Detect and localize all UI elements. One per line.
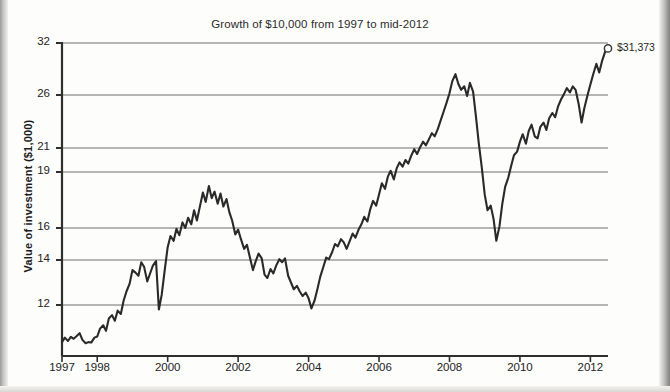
- x-tick-label-2006: 2006: [349, 361, 409, 373]
- endpoint-circle-marker: [604, 45, 611, 52]
- series-line-0: [62, 48, 608, 343]
- x-tick-label-2004: 2004: [279, 361, 339, 373]
- axis-lines: [62, 42, 608, 356]
- y-tick-label-21: 21: [16, 140, 50, 152]
- tick-marks: [56, 43, 590, 362]
- x-tick-label-2000: 2000: [138, 361, 198, 373]
- y-tick-label-26: 26: [16, 87, 50, 99]
- y-tick-label-19: 19: [16, 164, 50, 176]
- y-tick-label-16: 16: [16, 220, 50, 232]
- endpoint-value-label: $31,373: [617, 41, 655, 53]
- x-tick-label-2010: 2010: [490, 361, 550, 373]
- chart-page: Growth of $10,000 from 1997 to mid-2012 …: [0, 0, 670, 392]
- chart-svg: [0, 0, 670, 392]
- x-tick-label-2012: 2012: [560, 361, 620, 373]
- y-tick-label-32: 32: [16, 35, 50, 47]
- x-tick-label-2008: 2008: [419, 361, 479, 373]
- endpoint-marker: [604, 45, 611, 52]
- plot-area: [0, 0, 670, 392]
- y-tick-label-14: 14: [16, 252, 50, 264]
- x-tick-label-1998: 1998: [67, 361, 127, 373]
- y-tick-label-12: 12: [16, 297, 50, 309]
- data-series: [62, 48, 608, 343]
- x-tick-label-2002: 2002: [208, 361, 268, 373]
